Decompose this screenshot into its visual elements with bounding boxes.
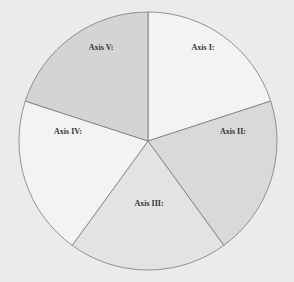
- label-axis-2: Axis II:: [220, 127, 246, 136]
- label-axis-3: Axis III:: [134, 199, 163, 208]
- label-axis-5: Axis V:: [89, 43, 114, 52]
- label-axis-1: Axis I:: [192, 43, 215, 52]
- axis-pie-diagram: Axis I: Axis II: Axis III: Axis IV: Axis…: [0, 0, 294, 282]
- label-axis-4: Axis IV:: [54, 127, 82, 136]
